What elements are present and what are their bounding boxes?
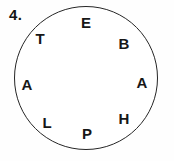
- puzzle-letter: H: [119, 111, 130, 126]
- puzzle-letter: L: [42, 115, 51, 130]
- item-number-label: 4.: [9, 6, 23, 23]
- puzzle-letter: T: [35, 31, 44, 46]
- puzzle-letter: A: [22, 77, 33, 92]
- worksheet-figure: 4. E B A H P L A T: [0, 0, 174, 161]
- puzzle-letter: E: [81, 15, 91, 30]
- puzzle-letter: B: [119, 36, 130, 51]
- puzzle-letter: A: [137, 75, 148, 90]
- puzzle-letter: P: [82, 126, 92, 141]
